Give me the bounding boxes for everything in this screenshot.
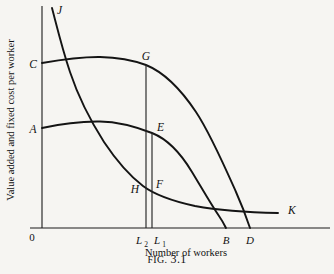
chart-canvas: J C A G E H F K 0 L 2 L 1 B D Number of … (0, 0, 334, 274)
point-label-e: E (156, 121, 164, 133)
point-label-a: A (28, 123, 37, 135)
point-label-f: F (155, 178, 164, 190)
figure-caption-prefix: FIG. (147, 254, 167, 265)
point-label-h: H (130, 183, 140, 195)
figure-container: J C A G E H F K 0 L 2 L 1 B D Number of … (0, 0, 334, 274)
point-label-j: J (57, 4, 63, 16)
tick-label-l2-letter: L (135, 234, 142, 246)
tick-label-d: D (245, 234, 254, 246)
tick-label-l1-letter: L (153, 234, 160, 246)
figure-caption-number: 3.1 (171, 252, 187, 266)
y-axis-title: Value added and fixed cost per worker (5, 39, 16, 201)
point-label-k: K (287, 204, 297, 216)
point-label-g: G (142, 50, 151, 62)
curve-jk (52, 8, 278, 213)
figure-caption: FIG. 3.1 (0, 252, 334, 267)
tick-label-b: B (223, 234, 230, 246)
origin-label: 0 (29, 231, 35, 243)
point-label-c: C (29, 58, 37, 70)
curve-aeb (42, 121, 226, 228)
